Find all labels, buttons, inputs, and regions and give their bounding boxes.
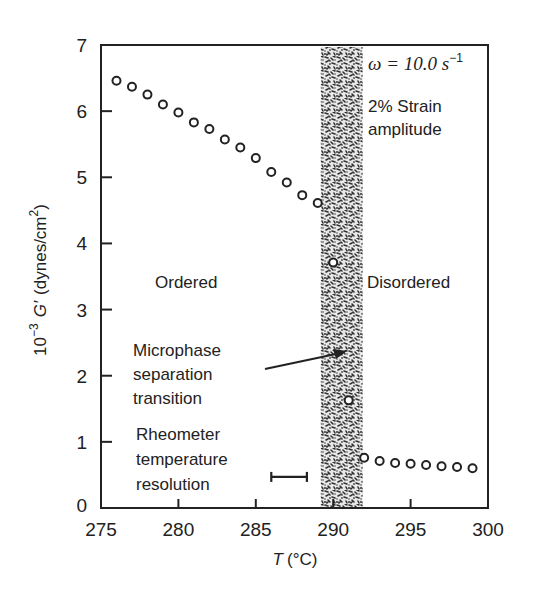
mst-label-line1: Microphase (133, 341, 221, 360)
data-point (314, 199, 322, 207)
data-point (190, 118, 198, 126)
x-tick-label: 275 (85, 519, 117, 540)
y-tick-label: 7 (76, 35, 87, 56)
x-axis-title: T(°C) (273, 550, 318, 569)
y-tick-label: 6 (76, 101, 87, 122)
data-point (298, 191, 306, 199)
strain-label-line1: 2% Strain (368, 97, 442, 116)
ordered-label: Ordered (155, 273, 217, 292)
y-axis-title: 10−3G′(dynes/cm2) (27, 204, 50, 356)
mst-label-line2: separation (133, 365, 212, 384)
data-point (407, 460, 415, 468)
y-tick-label: 3 (76, 300, 87, 321)
disordered-label: Disordered (367, 273, 450, 292)
data-point (469, 464, 477, 472)
y-tick-label: 1 (76, 432, 87, 453)
rheometer-label-line3: resolution (136, 475, 210, 494)
data-point (159, 101, 167, 109)
temperature-resolution-bar (271, 472, 307, 482)
x-tick-label: 285 (240, 519, 272, 540)
data-point (329, 259, 337, 267)
x-tick-label: 290 (317, 519, 349, 540)
data-point (453, 463, 461, 471)
mst-label-line3: transition (133, 389, 202, 408)
data-point (360, 454, 368, 462)
data-point (345, 396, 353, 404)
y-tick-label: 5 (76, 167, 87, 188)
data-point (221, 136, 229, 144)
y-tick-label: 0 (76, 495, 87, 516)
transition-band (321, 47, 363, 508)
y-axis: 01234567 (76, 35, 112, 516)
data-point (143, 91, 151, 99)
chart: 275280285290295300 01234567 ω = 10.0 s−1… (0, 0, 537, 595)
strain-label-line2: amplitude (368, 120, 442, 139)
omega-label: ω = 10.0 s−1 (368, 51, 463, 74)
data-point (391, 459, 399, 467)
data-point (283, 179, 291, 187)
x-tick-label: 280 (163, 519, 195, 540)
data-point (376, 457, 384, 465)
x-tick-label: 295 (395, 519, 427, 540)
x-tick-label: 300 (472, 519, 504, 540)
rheometer-label-line2: temperature (136, 450, 228, 469)
data-point (205, 125, 213, 133)
y-tick-label: 4 (76, 233, 87, 254)
x-axis: 275280285290295300 (85, 499, 504, 540)
data-point (267, 168, 275, 176)
data-point (422, 461, 430, 469)
data-point (128, 83, 136, 91)
data-point (112, 77, 120, 85)
data-point (236, 144, 244, 152)
y-tick-label: 2 (76, 366, 87, 387)
data-point (438, 462, 446, 470)
rheometer-label-line1: Rheometer (136, 425, 220, 444)
data-point (252, 154, 260, 162)
data-point (174, 108, 182, 116)
